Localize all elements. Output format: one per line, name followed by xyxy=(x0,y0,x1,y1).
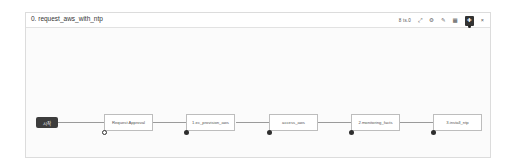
grid-icon[interactable]: ▦ xyxy=(453,15,458,26)
panel-header: 0. request_aws_with_ntp 8 ts.0 ⤢ ⚙ ✎ ▦ ✚… xyxy=(26,13,490,28)
workflow-node-install-ntp[interactable]: 3.install_ntp xyxy=(433,114,482,131)
gear-icon[interactable]: ⚙ xyxy=(429,15,434,26)
edge xyxy=(58,122,104,123)
workflow-node-ec-provision-aws[interactable]: 1.ec_provision_aws xyxy=(186,114,235,131)
edge xyxy=(318,122,351,123)
toolbar: 8 ts.0 ⤢ ⚙ ✎ ▦ ✚ × xyxy=(399,15,484,26)
start-node[interactable]: 시작 xyxy=(36,117,58,128)
workflow-panel: 0. request_aws_with_ntp 8 ts.0 ⤢ ⚙ ✎ ▦ ✚… xyxy=(25,12,491,158)
close-icon[interactable]: × xyxy=(481,15,484,26)
workflow-node-monitoring-facts[interactable]: 2.monitoring_facts xyxy=(351,114,400,131)
node-handle-icon[interactable] xyxy=(431,130,436,135)
expand-icon[interactable]: ⤢ xyxy=(418,15,422,26)
node-handle-icon[interactable] xyxy=(267,130,272,135)
workflow-node-access-aws[interactable]: access_aws xyxy=(269,114,318,131)
wrench-icon[interactable]: ✎ xyxy=(441,15,446,26)
node-handle-icon[interactable] xyxy=(349,130,354,135)
pin-icon[interactable]: ✚ xyxy=(465,16,474,26)
node-handle-icon[interactable] xyxy=(102,130,107,135)
workflow-canvas[interactable]: 시작 Request Approval 1.ec_provision_aws a… xyxy=(26,28,490,158)
edge xyxy=(236,122,269,123)
workflow-node-request-approval[interactable]: Request Approval xyxy=(104,114,153,131)
zoom-level[interactable]: 8 ts.0 xyxy=(399,15,411,26)
edge xyxy=(400,122,433,123)
panel-title: 0. request_aws_with_ntp xyxy=(31,15,103,22)
node-handle-icon[interactable] xyxy=(184,130,189,135)
edge xyxy=(153,122,186,123)
